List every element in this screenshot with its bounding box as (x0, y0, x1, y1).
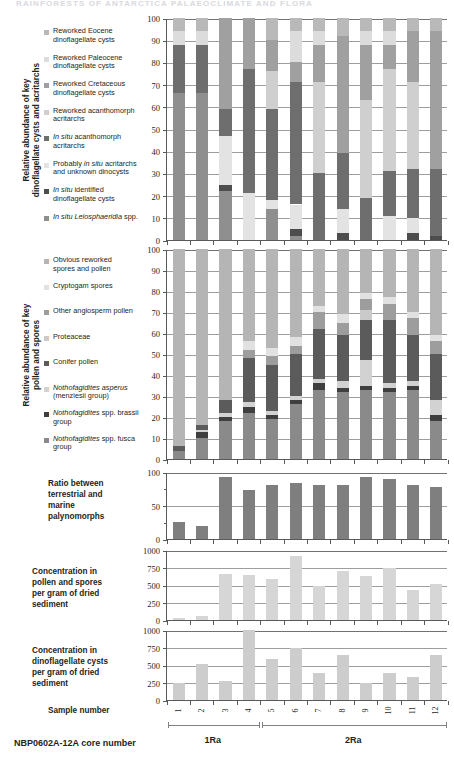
bar-segment[interactable] (266, 71, 278, 109)
bar[interactable] (337, 249, 349, 459)
bar-segment[interactable] (290, 346, 302, 354)
bar[interactable] (337, 655, 349, 701)
bar-segment[interactable] (360, 386, 372, 390)
bar[interactable] (243, 249, 255, 459)
bar-segment[interactable] (266, 419, 278, 459)
bar-segment[interactable] (173, 451, 185, 459)
bar-segment[interactable] (383, 297, 395, 303)
bar-segment[interactable] (290, 249, 302, 337)
bar-segment[interactable] (383, 69, 395, 171)
bar-segment[interactable] (266, 249, 278, 348)
bar-segment[interactable] (243, 350, 255, 358)
bar[interactable] (196, 616, 208, 620)
bar-segment[interactable] (173, 93, 185, 240)
bar-segment[interactable] (430, 31, 442, 169)
bar-segment[interactable] (407, 381, 419, 385)
bar[interactable] (360, 249, 372, 459)
bar-segment[interactable] (243, 407, 255, 413)
bar-segment[interactable] (196, 425, 208, 429)
bar[interactable] (196, 18, 208, 240)
bar-segment[interactable] (430, 415, 442, 421)
bar-segment[interactable] (173, 446, 185, 450)
bar-segment[interactable] (360, 299, 372, 310)
bar-segment[interactable] (196, 249, 208, 425)
bar-segment[interactable] (360, 18, 372, 31)
bar[interactable] (430, 18, 442, 240)
bar[interactable] (383, 673, 395, 700)
bar-segment[interactable] (407, 31, 419, 82)
bar-segment[interactable] (383, 18, 395, 31)
bar-segment[interactable] (360, 310, 372, 321)
bar-segment[interactable] (290, 337, 302, 345)
bar[interactable] (337, 485, 349, 539)
bar-segment[interactable] (173, 31, 185, 44)
bar[interactable] (383, 568, 395, 620)
bar-segment[interactable] (219, 421, 231, 459)
bar-segment[interactable] (430, 421, 442, 459)
bar[interactable] (243, 575, 255, 620)
bar-segment[interactable] (243, 69, 255, 193)
bar-segment[interactable] (383, 216, 395, 240)
bar-segment[interactable] (173, 249, 185, 446)
bar[interactable] (430, 584, 442, 620)
bar[interactable] (219, 681, 231, 700)
bar[interactable] (407, 18, 419, 240)
bar-segment[interactable] (313, 312, 325, 329)
bar-segment[interactable] (430, 335, 442, 341)
bar-segment[interactable] (337, 233, 349, 240)
bar-segment[interactable] (407, 249, 419, 312)
bar-segment[interactable] (173, 18, 185, 31)
bar[interactable] (173, 249, 185, 459)
bar-segment[interactable] (383, 31, 395, 44)
bar-segment[interactable] (407, 312, 419, 318)
bar-segment[interactable] (337, 392, 349, 459)
bar[interactable] (337, 18, 349, 240)
bar[interactable] (383, 18, 395, 240)
bar-segment[interactable] (290, 229, 302, 236)
bar[interactable] (243, 490, 255, 539)
bar-segment[interactable] (243, 249, 255, 341)
bar-segment[interactable] (196, 31, 208, 44)
bar-segment[interactable] (430, 169, 442, 236)
bar-segment[interactable] (266, 109, 278, 200)
bar-segment[interactable] (313, 306, 325, 312)
bar-segment[interactable] (219, 249, 231, 400)
bar-segment[interactable] (266, 411, 278, 415)
bar-segment[interactable] (266, 365, 278, 411)
bar[interactable] (407, 677, 419, 700)
bar-segment[interactable] (407, 233, 419, 240)
bar-segment[interactable] (360, 31, 372, 44)
bar-segment[interactable] (407, 390, 419, 459)
bar[interactable] (407, 485, 419, 539)
bar-segment[interactable] (407, 386, 419, 390)
bar[interactable] (196, 249, 208, 459)
bar[interactable] (243, 18, 255, 240)
bar-segment[interactable] (290, 31, 302, 62)
bar[interactable] (290, 249, 302, 459)
bar-segment[interactable] (290, 236, 302, 240)
bar-segment[interactable] (219, 417, 231, 421)
bar[interactable] (243, 630, 255, 700)
bar-segment[interactable] (313, 383, 325, 389)
bar-segment[interactable] (219, 185, 231, 192)
bar[interactable] (196, 526, 208, 539)
bar[interactable] (266, 18, 278, 240)
bar-segment[interactable] (360, 198, 372, 240)
bar-segment[interactable] (219, 109, 231, 136)
bar[interactable] (290, 556, 302, 620)
bar-segment[interactable] (196, 438, 208, 459)
bar[interactable] (173, 522, 185, 539)
bar[interactable] (407, 590, 419, 620)
bar[interactable] (313, 18, 325, 240)
bar-segment[interactable] (266, 200, 278, 209)
bar-segment[interactable] (219, 18, 231, 109)
bar[interactable] (383, 249, 395, 459)
bar-segment[interactable] (266, 356, 278, 364)
bar[interactable] (290, 648, 302, 701)
bar-segment[interactable] (290, 62, 302, 82)
bar-segment[interactable] (407, 218, 419, 234)
bar-segment[interactable] (196, 432, 208, 438)
bar-segment[interactable] (337, 209, 349, 233)
bar-segment[interactable] (313, 173, 325, 240)
bar-segment[interactable] (383, 45, 395, 69)
